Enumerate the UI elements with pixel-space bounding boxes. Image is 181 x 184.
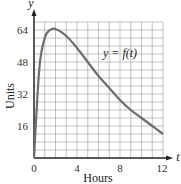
x-axis-arrow-icon bbox=[166, 156, 173, 161]
y-tick: 16 bbox=[17, 120, 29, 132]
y-tick: 48 bbox=[17, 56, 29, 68]
y-tick: 32 bbox=[17, 88, 28, 100]
x-axis-title: Hours bbox=[83, 171, 113, 184]
y-tick-labels: 16 32 48 64 bbox=[17, 24, 29, 132]
x-axis-var-label: t bbox=[176, 150, 180, 164]
chart-svg: y t y = f(t) Units Hours 0 4 8 12 16 32 … bbox=[0, 0, 181, 184]
y-axis-arrow-icon bbox=[32, 9, 37, 16]
x-tick: 0 bbox=[31, 162, 37, 174]
x-tick: 4 bbox=[74, 162, 80, 174]
axes bbox=[32, 9, 174, 161]
curve-label: y = f(t) bbox=[102, 46, 137, 60]
x-tick: 8 bbox=[117, 162, 123, 174]
y-axis-var-label: y bbox=[27, 0, 34, 10]
y-axis-title: Units bbox=[3, 83, 17, 109]
x-tick: 12 bbox=[157, 162, 168, 174]
grid bbox=[34, 22, 163, 158]
y-tick: 64 bbox=[17, 24, 29, 36]
